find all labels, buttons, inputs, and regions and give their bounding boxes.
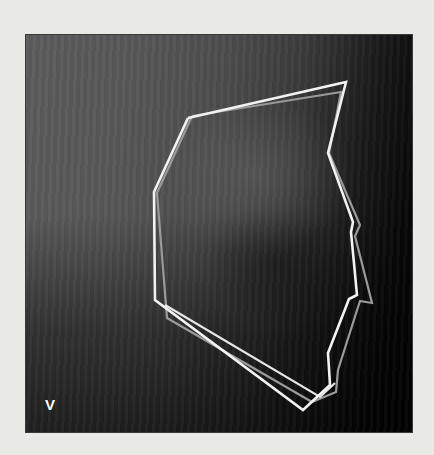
outline-overlay <box>0 0 434 455</box>
panel-label: V <box>45 397 55 413</box>
outline-gray <box>157 92 372 402</box>
outline-white-inner <box>165 305 335 397</box>
